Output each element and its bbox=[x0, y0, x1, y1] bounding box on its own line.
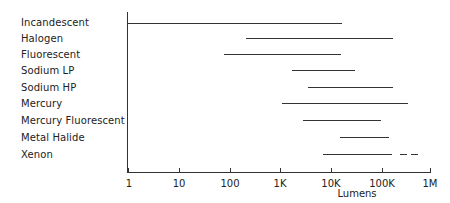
range-bar bbox=[340, 137, 389, 138]
x-tick-label: 10 bbox=[173, 178, 186, 189]
category-label: Metal Halide bbox=[21, 132, 85, 144]
x-tick bbox=[280, 168, 281, 173]
range-bar bbox=[224, 54, 341, 55]
x-tick bbox=[179, 168, 180, 173]
x-tick bbox=[430, 168, 431, 173]
range-bar bbox=[323, 154, 392, 155]
category-label: Sodium HP bbox=[21, 82, 76, 94]
category-label: Mercury Fluorescent bbox=[21, 115, 125, 127]
x-tick-label: 1K bbox=[274, 178, 287, 189]
range-bar bbox=[308, 87, 393, 88]
x-tick-label: 1M bbox=[423, 178, 438, 189]
y-axis bbox=[127, 12, 128, 173]
category-label: Halogen bbox=[21, 33, 63, 45]
category-label: Xenon bbox=[21, 149, 53, 161]
x-tick-label: 1 bbox=[126, 178, 132, 189]
range-bar bbox=[303, 120, 382, 121]
category-label: Incandescent bbox=[21, 17, 89, 29]
x-tick bbox=[382, 168, 383, 173]
x-axis-title: Lumens bbox=[337, 188, 376, 199]
x-tick-label: 100 bbox=[220, 178, 239, 189]
category-label: Fluorescent bbox=[21, 49, 80, 61]
x-tick bbox=[128, 168, 129, 173]
range-bar-extension bbox=[400, 154, 407, 155]
x-tick bbox=[230, 168, 231, 173]
range-bar bbox=[292, 70, 355, 71]
x-tick bbox=[331, 168, 332, 173]
range-bar-extension bbox=[411, 154, 418, 155]
category-label: Mercury bbox=[21, 98, 62, 110]
range-bar bbox=[128, 23, 342, 24]
category-label: Sodium LP bbox=[21, 65, 74, 77]
x-axis bbox=[127, 172, 431, 173]
range-bar bbox=[246, 38, 393, 39]
range-bar bbox=[282, 103, 408, 104]
